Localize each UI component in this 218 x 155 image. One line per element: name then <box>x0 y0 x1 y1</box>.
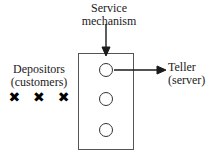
service-slot-circle <box>99 63 113 77</box>
teller-label: Teller (server) <box>168 61 205 87</box>
customer-mark-icon: ✖ <box>58 90 70 104</box>
depositors-label: Depositors (customers) <box>2 63 76 89</box>
depositors-label-line2: (customers) <box>2 76 76 89</box>
right-arrow-icon <box>157 66 166 74</box>
service-slot-circle <box>99 92 113 106</box>
teller-label-line2: (server) <box>168 74 205 87</box>
service-slot-circle <box>99 123 113 137</box>
customer-mark-icon: ✖ <box>33 90 45 104</box>
service-mechanism-label-line2: mechanism <box>0 15 218 28</box>
customer-mark-icon: ✖ <box>8 90 20 104</box>
queueing-system-diagram: Service mechanism Depositors (customers)… <box>0 0 218 155</box>
customer-marks-row: ✖ ✖ ✖ <box>2 90 76 104</box>
service-mechanism-label: Service mechanism <box>0 2 218 28</box>
